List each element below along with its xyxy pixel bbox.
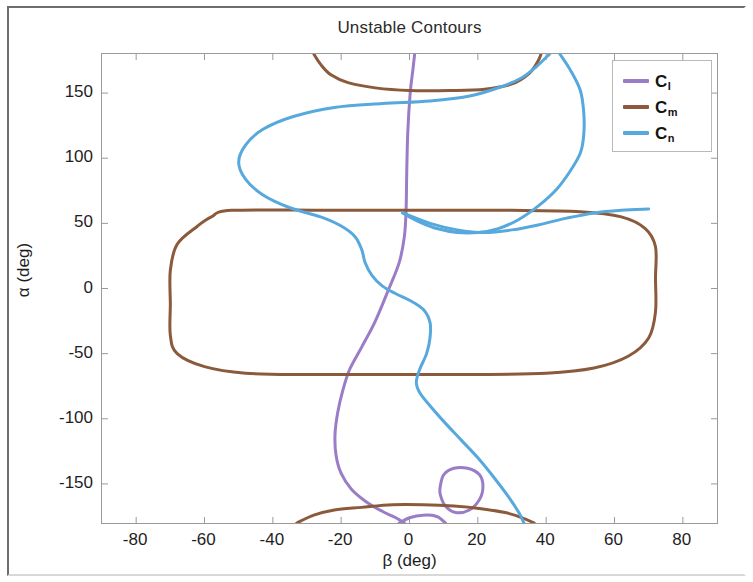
legend-item-C_n: Cn (623, 120, 711, 146)
y-tick-label: -50 (5, 343, 93, 363)
contour-C_n_right (403, 54, 585, 233)
x-tick-label: 40 (536, 530, 555, 550)
x-tick-label: 60 (604, 530, 623, 550)
contour-C_n (239, 54, 550, 523)
contour-C_l (335, 54, 415, 523)
contour-C_m_bottom (297, 505, 534, 523)
legend-label-subscript: m (668, 106, 678, 118)
chart-title: Unstable Contours (101, 18, 718, 38)
legend-label: Cl (655, 73, 670, 90)
x-tick-label: -80 (123, 530, 148, 550)
y-tick-label: -100 (5, 408, 93, 428)
legend-swatch-icon (623, 131, 649, 135)
legend-item-C_l: Cl (623, 68, 711, 94)
legend-label-subscript: n (668, 132, 675, 144)
x-tick-label: 0 (404, 530, 413, 550)
x-tick-label: 20 (467, 530, 486, 550)
legend-label: Cn (655, 125, 674, 142)
x-tick-label: -40 (260, 530, 285, 550)
y-tick-label: 100 (5, 147, 93, 167)
legend-label-base: C (655, 72, 667, 91)
x-tick-label: -60 (191, 530, 216, 550)
legend-label-base: C (655, 124, 667, 143)
legend-swatch-icon (623, 79, 649, 83)
contour-C_l_bottom_arc (399, 515, 445, 523)
x-tick-label: 80 (672, 530, 691, 550)
y-tick-label: 150 (5, 82, 93, 102)
legend-label: Cm (655, 99, 677, 116)
contour-C_m_main (170, 210, 656, 375)
chart-legend: ClCmCn (612, 60, 712, 152)
y-tick-label: -150 (5, 473, 93, 493)
legend-swatch-icon (623, 105, 649, 109)
x-axis-title: β (deg) (101, 551, 718, 571)
screenshot-page: Unstable Contours 150100500-50-100-150 -… (0, 0, 753, 582)
legend-item-C_m: Cm (623, 94, 711, 120)
x-tick-label: -20 (328, 530, 353, 550)
legend-label-base: C (655, 98, 667, 117)
chart-figure: Unstable Contours 150100500-50-100-150 -… (0, 0, 753, 582)
y-axis-title: α (deg) (14, 210, 34, 330)
legend-label-subscript: l (668, 80, 671, 92)
